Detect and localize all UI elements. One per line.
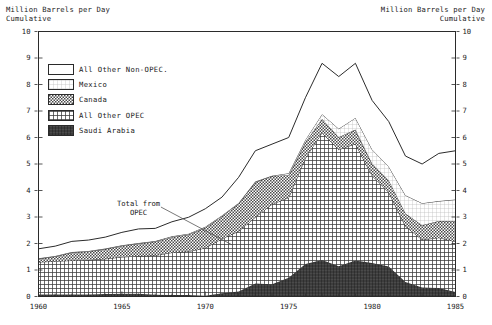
x-tick-label-1960: 1960 bbox=[19, 302, 59, 311]
y-tick-label-right-8: 8 bbox=[463, 80, 485, 89]
legend-swatch-dense-dark-icon bbox=[48, 125, 74, 136]
y-tick-label-left-9: 9 bbox=[9, 53, 31, 62]
left-axis-title-line1: Million Barrels per Day bbox=[6, 5, 110, 14]
legend-swatch-checker-icon bbox=[48, 94, 74, 105]
y-tick-label-left-3: 3 bbox=[9, 212, 31, 221]
y-tick-label-right-0: 0 bbox=[463, 292, 485, 301]
x-tick-label-1985: 1985 bbox=[436, 302, 476, 311]
annotation-total-from-opec: Total fromOPEC bbox=[117, 199, 160, 218]
y-tick-label-left-8: 8 bbox=[9, 80, 31, 89]
right-axis-title-line1: Million Barrels per Day bbox=[381, 5, 485, 14]
y-tick-label-right-6: 6 bbox=[463, 133, 485, 142]
right-axis-title: Million Barrels per DayCumulative bbox=[381, 5, 485, 23]
legend-swatch-fine-grid-icon bbox=[48, 79, 74, 90]
legend-label: All Other Non-OPEC. bbox=[79, 65, 168, 74]
x-tick-label-1980: 1980 bbox=[352, 302, 392, 311]
legend-label: Saudi Arabia bbox=[79, 126, 135, 135]
y-tick-label-right-9: 9 bbox=[463, 53, 485, 62]
y-tick-label-left-0: 0 bbox=[9, 292, 31, 301]
legend-item-mexico[interactable]: Mexico bbox=[48, 79, 107, 90]
y-tick-label-left-2: 2 bbox=[9, 239, 31, 248]
left-axis-title: Million Barrels per DayCumulative bbox=[6, 5, 110, 23]
y-tick-label-right-1: 1 bbox=[463, 265, 485, 274]
y-tick-label-left-5: 5 bbox=[9, 159, 31, 168]
y-tick-label-left-6: 6 bbox=[9, 133, 31, 142]
y-tick-label-left-10: 10 bbox=[9, 27, 31, 36]
right-axis-title-line2: Cumulative bbox=[440, 14, 485, 23]
legend-item-canada[interactable]: Canada bbox=[48, 94, 107, 105]
chart-container: Million Barrels per DayCumulative Millio… bbox=[0, 0, 492, 325]
annotation-line1: Total from bbox=[117, 199, 160, 208]
y-tick-label-right-5: 5 bbox=[463, 159, 485, 168]
y-tick-label-right-10: 10 bbox=[463, 27, 485, 36]
plot-area bbox=[0, 0, 492, 325]
legend-label: Mexico bbox=[79, 80, 107, 89]
y-tick-label-right-2: 2 bbox=[463, 239, 485, 248]
annotation-line2: OPEC bbox=[130, 208, 147, 217]
legend-item-saudi-arabia[interactable]: Saudi Arabia bbox=[48, 125, 135, 136]
y-tick-label-left-4: 4 bbox=[9, 186, 31, 195]
y-tick-label-right-4: 4 bbox=[463, 186, 485, 195]
legend-item-all-other-non-opec[interactable]: All Other Non-OPEC. bbox=[48, 64, 168, 75]
legend-item-all-other-opec[interactable]: All Other OPEC bbox=[48, 110, 144, 121]
y-tick-label-left-1: 1 bbox=[9, 265, 31, 274]
legend-swatch-blank-icon bbox=[48, 64, 74, 75]
y-tick-label-left-7: 7 bbox=[9, 106, 31, 115]
legend-label: Canada bbox=[79, 95, 107, 104]
y-tick-label-right-7: 7 bbox=[463, 106, 485, 115]
legend-label: All Other OPEC bbox=[79, 111, 144, 120]
x-tick-label-1975: 1975 bbox=[269, 302, 309, 311]
y-tick-label-right-3: 3 bbox=[463, 212, 485, 221]
legend-swatch-cross-hatch-icon bbox=[48, 110, 74, 121]
x-tick-label-1965: 1965 bbox=[102, 302, 142, 311]
left-axis-title-line2: Cumulative bbox=[6, 14, 51, 23]
x-tick-label-1970: 1970 bbox=[185, 302, 225, 311]
